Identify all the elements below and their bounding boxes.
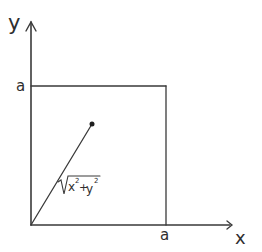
point-marker xyxy=(90,122,95,127)
label-y: y xyxy=(86,182,93,196)
distance-segment xyxy=(31,124,92,225)
y-axis-label: y xyxy=(8,11,20,35)
distance-label: x 2 + y 2 xyxy=(58,176,100,196)
label-y-exponent: 2 xyxy=(94,177,98,185)
diagram-canvas: y x a a x 2 + y 2 xyxy=(0,0,262,252)
y-tick-label-a: a xyxy=(16,77,25,95)
x-tick-label-a: a xyxy=(160,226,169,244)
x-axis-label: x xyxy=(235,227,246,248)
